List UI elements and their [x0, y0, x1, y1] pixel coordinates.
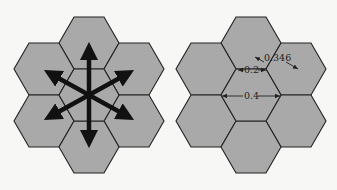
label-side-width: 0.2	[244, 64, 259, 75]
right-hex-cluster: 0.346 0.2 0.4	[176, 17, 326, 173]
hexagon-figure: 0.346 0.2 0.4	[0, 0, 337, 190]
label-center-distance: 0.346	[264, 52, 291, 63]
label-vertex-width: 0.4	[244, 90, 259, 101]
left-hex-cluster	[14, 17, 164, 173]
